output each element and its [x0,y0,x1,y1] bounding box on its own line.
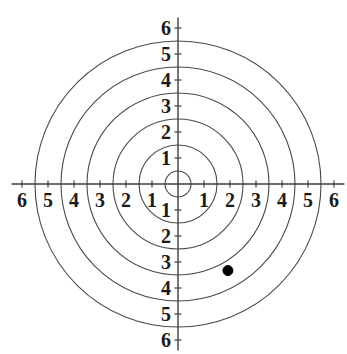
y-tick-label-pos-3: 3 [161,96,171,116]
data-point-marker[interactable] [223,266,233,276]
y-tick-label-neg-1: 1 [161,200,171,220]
data-points-group [223,266,233,276]
y-tick-label-neg-3: 3 [161,252,171,272]
x-tick-label-neg-2: 2 [121,190,131,210]
x-tick-label-neg-3: 3 [95,190,105,210]
x-tick-label-pos-1: 1 [199,190,209,210]
x-tick-label-neg-1: 1 [147,190,157,210]
y-tick-label-neg-6: 6 [161,330,171,350]
polar-plot-figure: 123456123456123456123456 [0,0,347,354]
x-tick-label-neg-5: 5 [43,190,53,210]
x-tick-label-neg-6: 6 [17,190,27,210]
x-tick-label-pos-6: 6 [329,190,339,210]
y-tick-label-neg-5: 5 [161,304,171,324]
x-tick-label-pos-4: 4 [277,190,287,210]
x-tick-label-pos-5: 5 [303,190,313,210]
y-tick-label-pos-5: 5 [161,44,171,64]
y-tick-label-neg-4: 4 [161,278,171,298]
y-tick-label-pos-4: 4 [161,70,171,90]
y-tick-label-pos-1: 1 [161,148,171,168]
x-tick-label-neg-4: 4 [69,190,79,210]
polar-grid-canvas [0,0,347,354]
axis-lines-group [12,18,345,351]
x-tick-label-pos-2: 2 [225,190,235,210]
y-tick-label-neg-2: 2 [161,226,171,246]
x-tick-label-pos-3: 3 [251,190,261,210]
y-tick-label-pos-6: 6 [161,18,171,38]
y-tick-label-pos-2: 2 [161,122,171,142]
